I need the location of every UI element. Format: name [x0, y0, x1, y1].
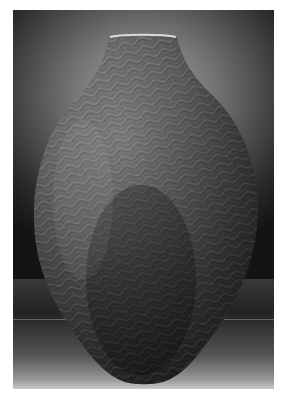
vase-photograph	[13, 10, 274, 389]
vase-body	[13, 10, 274, 389]
vase-illustration	[13, 10, 274, 389]
page	[0, 0, 288, 400]
